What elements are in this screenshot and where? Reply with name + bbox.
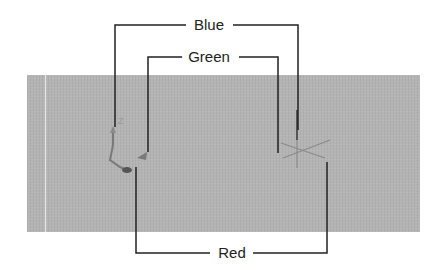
z-axis-label: Z [118, 116, 124, 126]
blue-callout-label: Blue [188, 17, 230, 33]
red-callout-line [136, 162, 327, 253]
crosshair-icon [281, 110, 330, 168]
green-callout-line [148, 57, 278, 153]
green-callout-label: Green [182, 49, 236, 65]
blue-callout-line [115, 25, 298, 130]
red-callout-label: Red [212, 245, 252, 261]
callout-lines: Z [0, 0, 438, 270]
